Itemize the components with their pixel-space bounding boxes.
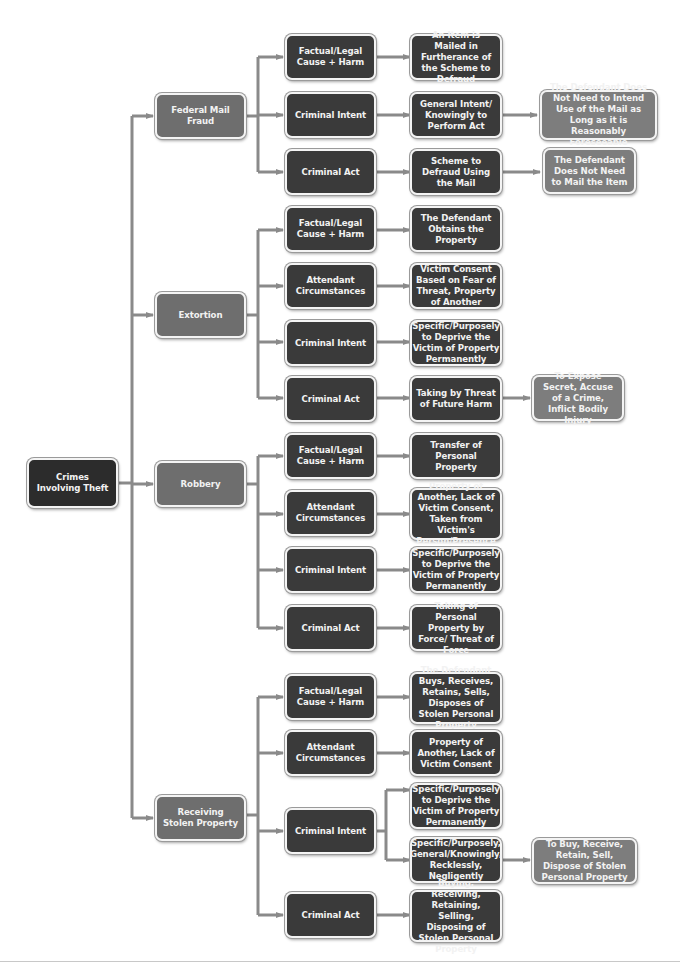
robbery-detail-deprive-permanently: Specific/Purposely to Deprive the Victim… [410,547,502,593]
rsp-detail-deprive-permanently: Specific/Purposely to Deprive the Victim… [410,783,502,829]
rsp-detail-property-of-another: Property of Another, Lack of Victim Cons… [410,730,502,776]
rsp-element-cause-harm: Factual/Legal Cause + Harm [285,674,376,720]
footer-divider [0,961,680,962]
rsp-element-criminal-intent: Criminal Intent [285,808,376,854]
extortion-note-expose-secret: To Expose Secret, Accuse of a Crime, Inf… [532,375,624,421]
fmf-element-criminal-intent: Criminal Intent [285,92,376,138]
category-robbery: Robbery [155,461,246,507]
extortion-element-attendant-circumstances: Attendant Circumstances [285,263,376,309]
extortion-detail-victim-consent-fear: Victim Consent Based on Fear of Threat, … [410,263,502,309]
extortion-detail-threat-future-harm: Taking by Threat of Future Harm [410,376,502,422]
extortion-detail-obtains-property: The Defendant Obtains the Property [410,206,502,252]
category-extortion: Extortion [155,292,246,338]
extortion-element-criminal-act: Criminal Act [285,376,376,422]
category-federal-mail-fraud: Federal Mail Fraud [155,93,246,139]
rsp-element-criminal-act: Criminal Act [285,892,376,938]
extortion-detail-deprive-permanently: Specific/Purposely to Deprive the Victim… [410,320,502,366]
robbery-detail-property-of-another: Property of Another, Lack of Victim Cons… [410,488,502,540]
root-node-crimes-involving-theft: Crimes Involving Theft [27,458,118,508]
rsp-note-buy-receive-retain: To Buy, Receive, Retain, Sell, Dispose o… [532,838,637,884]
category-receiving-stolen-property: Receiving Stolen Property [155,795,246,841]
robbery-element-attendant-circumstances: Attendant Circumstances [285,490,376,536]
robbery-detail-taking-by-force: Taking of Personal Property by Force/ Th… [410,605,502,651]
extortion-element-cause-harm: Factual/Legal Cause + Harm [285,206,376,252]
robbery-detail-transfer-property: Transfer of Personal Property [410,433,502,479]
fmf-detail-scheme-to-defraud: Scheme to Defraud Using the Mail [410,149,502,195]
fmf-detail-item-mailed: An Item is Mailed in Furtherance of the … [410,34,502,80]
fmf-note-foreseeable-mail-use: The Defendant Does Not Need to Intend Us… [540,90,657,140]
extortion-element-criminal-intent: Criminal Intent [285,320,376,366]
rsp-detail-buys-receives: The Defendant Buys, Receives, Retains, S… [410,672,502,724]
robbery-element-cause-harm: Factual/Legal Cause + Harm [285,433,376,479]
fmf-element-cause-harm: Factual/Legal Cause + Harm [285,34,376,80]
rsp-detail-buying-receiving: Buying, Receiving, Retaining, Selling, D… [410,890,502,942]
crimes-involving-theft-diagram: Crimes Involving Theft Federal Mail Frau… [0,0,680,976]
fmf-detail-general-intent: General Intent/ Knowingly to Perform Act [410,92,502,138]
fmf-element-criminal-act: Criminal Act [285,149,376,195]
robbery-element-criminal-intent: Criminal Intent [285,547,376,593]
rsp-element-attendant-circumstances: Attendant Circumstances [285,730,376,776]
rsp-detail-mental-states: Specific/Purposely, General/Knowingly, R… [410,837,502,883]
fmf-note-need-not-mail-item: The Defendant Does Not Need to Mail the … [543,148,636,194]
robbery-element-criminal-act: Criminal Act [285,605,376,651]
